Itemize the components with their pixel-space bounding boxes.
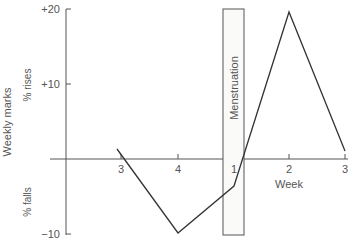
x-tick-label: 3 [342, 163, 348, 175]
rises-label: % rises [22, 69, 33, 102]
x-tick-label: 3 [118, 163, 124, 175]
y-tick-label-10: +10 [41, 78, 60, 90]
weekly-marks-label: Weekly marks [1, 87, 13, 156]
x-tick-label: 4 [175, 163, 181, 175]
x-tick-label: 2 [286, 163, 292, 175]
y-tick-label-minus10: −10 [41, 228, 60, 240]
falls-label: % falls [22, 187, 33, 216]
y-tick-label-20: +20 [41, 3, 60, 15]
chart: Menstruation +20 +10 −10 % rises % falls… [0, 0, 353, 251]
menstruation-band [223, 9, 244, 235]
x-axis-label: Week [275, 178, 303, 190]
menstruation-label: Menstruation [228, 56, 240, 120]
x-tick-label: 1 [231, 163, 237, 175]
